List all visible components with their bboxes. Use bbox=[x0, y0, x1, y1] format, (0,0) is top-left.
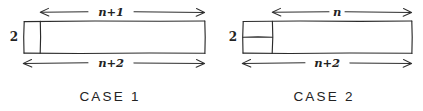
case2-caption: CASE 2 bbox=[293, 89, 354, 104]
tiling-cases-diagram: n+1 2 n+2 CASE 1 n bbox=[0, 0, 423, 111]
case1-caption: CASE 1 bbox=[79, 89, 140, 104]
case2-top-dimension-label: n bbox=[333, 5, 341, 19]
case2-top-dimension-arrow bbox=[272, 8, 411, 16]
case1-top-dimension-label: n+1 bbox=[98, 5, 123, 19]
case1-group: n+1 2 n+2 CASE 1 bbox=[10, 5, 205, 104]
case1-bottom-dimension-label: n+2 bbox=[98, 56, 124, 70]
case1-height-label: 2 bbox=[10, 30, 18, 44]
case1-board-rectangle bbox=[24, 21, 206, 54]
case2-group: n 2 n+2 CASE 2 bbox=[229, 5, 412, 104]
case2-height-label: 2 bbox=[229, 30, 237, 44]
case2-bottom-dimension-label: n+2 bbox=[314, 56, 340, 70]
